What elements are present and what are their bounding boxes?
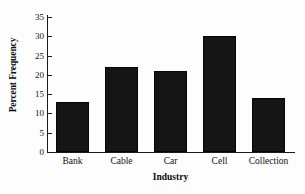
- bar-chart: Percent Frequency 05101520253035 BankCab…: [0, 0, 305, 194]
- x-axis-tick-label: Bank: [48, 156, 97, 166]
- plot-area: [48, 17, 293, 152]
- y-axis-tick-label: 25: [8, 51, 48, 61]
- y-axis-tick-label: 15: [8, 89, 48, 99]
- bar-slot: [154, 17, 187, 152]
- bar: [105, 67, 138, 152]
- bar-slot: [56, 17, 89, 152]
- bar-series: [48, 17, 293, 152]
- y-axis-tick-label: 20: [8, 70, 48, 80]
- y-axis-tick-label: 0: [8, 147, 48, 157]
- y-axis-tick-label: 30: [8, 31, 48, 41]
- y-axis-tick-label: 5: [8, 128, 48, 138]
- x-axis-title: Industry: [48, 172, 293, 182]
- y-axis-tick-label: 35: [8, 12, 48, 22]
- x-axis-tick-label: Cell: [195, 156, 244, 166]
- x-axis-tick-label: Car: [146, 156, 195, 166]
- x-axis-tick-label: Cable: [97, 156, 146, 166]
- bar-slot: [105, 17, 138, 152]
- bar-slot: [252, 17, 285, 152]
- x-axis-line: [47, 152, 295, 153]
- x-axis-tick-label: Collection: [244, 156, 293, 166]
- y-axis-tick: [48, 152, 52, 153]
- bar: [203, 36, 236, 152]
- bar: [154, 71, 187, 152]
- y-axis-tick-label: 10: [8, 108, 48, 118]
- bar-slot: [203, 17, 236, 152]
- bar: [252, 98, 285, 152]
- bar: [56, 102, 89, 152]
